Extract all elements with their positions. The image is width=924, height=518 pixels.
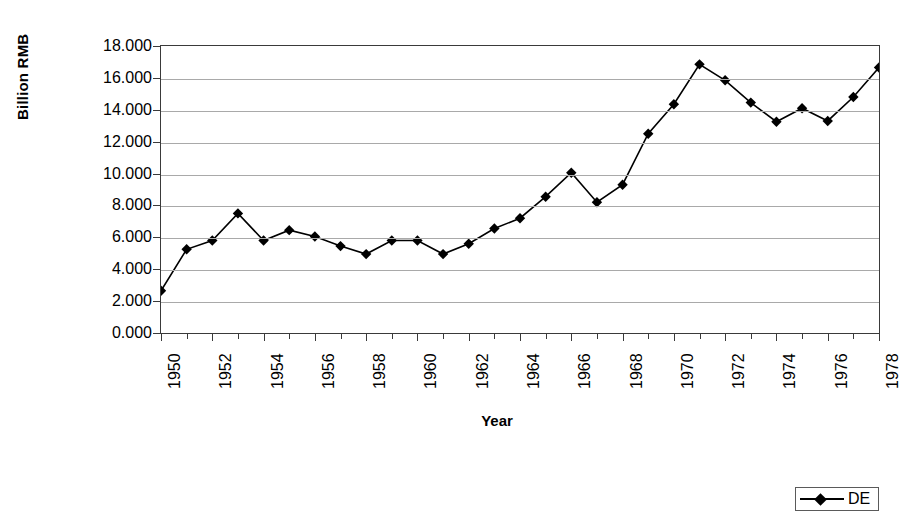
x-axis-tick-label: 1978 — [885, 353, 901, 389]
x-axis-tick-label: 1970 — [680, 353, 696, 389]
x-axis-tick-label: 1964 — [526, 353, 542, 389]
gridline — [161, 111, 879, 112]
y-axis-tick — [153, 333, 160, 334]
legend-label-de: DE — [848, 491, 870, 507]
x-axis-ticks — [160, 334, 882, 342]
x-axis-tick — [623, 334, 624, 341]
gridline — [161, 302, 879, 303]
y-axis-tick — [153, 174, 160, 175]
data-point-marker — [617, 180, 627, 190]
x-axis-tick — [648, 334, 649, 339]
x-axis-tick-label: 1972 — [731, 353, 747, 389]
x-axis-tick — [161, 334, 162, 341]
gridline — [161, 175, 879, 176]
x-axis-tick — [417, 334, 418, 341]
x-axis-title-text: Year — [481, 412, 513, 429]
x-axis-tick — [776, 334, 777, 341]
x-axis-tick — [238, 334, 239, 339]
y-axis-tick-label: 0.000 — [64, 325, 152, 341]
data-point-marker — [284, 225, 294, 235]
gridline — [161, 79, 879, 80]
x-axis-tick — [494, 334, 495, 339]
data-series-layer — [161, 46, 879, 333]
y-axis-tick-label: 18.000 — [64, 38, 152, 54]
x-axis-tick — [828, 334, 829, 341]
y-axis-tick-label: 14.000 — [64, 102, 152, 118]
x-axis-tick — [853, 334, 854, 339]
y-axis-tick — [153, 269, 160, 270]
data-point-marker — [387, 235, 397, 245]
gridline — [161, 270, 879, 271]
data-point-marker — [438, 249, 448, 259]
plot-area — [160, 45, 880, 334]
x-axis-title: Year — [0, 412, 924, 429]
y-axis-tick-label: 16.000 — [64, 70, 152, 86]
x-axis-tick — [674, 334, 675, 341]
x-axis-tick-label: 1962 — [475, 353, 491, 389]
x-axis-tick — [392, 334, 393, 339]
x-axis-tick — [571, 334, 572, 341]
x-axis-tick — [289, 334, 290, 339]
x-axis-tick-label: 1974 — [782, 353, 798, 389]
y-axis-tick-label: 12.000 — [64, 134, 152, 150]
legend-marker-de — [800, 493, 844, 505]
data-point-marker — [464, 239, 474, 249]
series-line-de — [161, 64, 879, 290]
gridline — [161, 206, 879, 207]
data-point-marker — [412, 235, 422, 245]
y-axis-ticks — [153, 45, 161, 335]
chart-legend: DE — [795, 487, 879, 511]
x-axis-tick — [751, 334, 752, 339]
x-axis-tick-labels: 1950195219541956195819601962196419661968… — [0, 345, 924, 407]
data-point-marker — [489, 223, 499, 233]
y-axis-tick — [153, 301, 160, 302]
y-axis-tick-label: 8.000 — [64, 197, 152, 213]
x-axis-tick — [802, 334, 803, 339]
y-axis-tick — [153, 142, 160, 143]
x-axis-tick — [264, 334, 265, 341]
x-axis-tick — [725, 334, 726, 341]
x-axis-tick-label: 1952 — [218, 353, 234, 389]
data-point-marker — [797, 103, 807, 113]
data-point-marker — [181, 244, 191, 254]
data-point-marker — [361, 249, 371, 259]
x-axis-tick — [469, 334, 470, 341]
x-axis-tick — [315, 334, 316, 341]
x-axis-tick-label: 1950 — [167, 353, 183, 389]
x-axis-tick — [700, 334, 701, 339]
x-axis-tick-label: 1958 — [372, 353, 388, 389]
x-axis-tick — [187, 334, 188, 339]
y-axis-tick-label: 2.000 — [64, 293, 152, 309]
y-axis-tick — [153, 46, 160, 47]
y-axis-title: Billion RMB — [14, 0, 31, 120]
diamond-marker-icon — [814, 493, 827, 506]
y-axis-tick — [153, 205, 160, 206]
x-axis-tick — [443, 334, 444, 339]
x-axis-tick-label: 1954 — [270, 353, 286, 389]
x-axis-tick — [341, 334, 342, 339]
y-axis-tick-label: 6.000 — [64, 229, 152, 245]
x-axis-tick-label: 1956 — [321, 353, 337, 389]
gridline — [161, 143, 879, 144]
x-axis-tick-label: 1976 — [834, 353, 850, 389]
x-axis-tick — [520, 334, 521, 341]
y-axis-tick — [153, 110, 160, 111]
x-axis-tick — [597, 334, 598, 339]
y-axis-tick-label: 4.000 — [64, 261, 152, 277]
data-point-marker — [694, 59, 704, 69]
x-axis-tick-label: 1968 — [629, 353, 645, 389]
y-axis-tick — [153, 237, 160, 238]
x-axis-tick — [546, 334, 547, 339]
chart-container: Billion RMB 0.0002.0004.0006.0008.00010.… — [0, 0, 924, 518]
gridline — [161, 238, 879, 239]
y-axis-tick-label: 10.000 — [64, 166, 152, 182]
y-axis-tick — [153, 78, 160, 79]
y-axis-tick-labels: 0.0002.0004.0006.0008.00010.00012.00014.… — [64, 37, 152, 343]
x-axis-tick-label: 1966 — [577, 353, 593, 389]
data-point-marker — [335, 241, 345, 251]
x-axis-tick — [366, 334, 367, 341]
x-axis-tick — [879, 334, 880, 341]
data-point-marker — [310, 231, 320, 241]
x-axis-tick — [212, 334, 213, 341]
x-axis-tick-label: 1960 — [423, 353, 439, 389]
